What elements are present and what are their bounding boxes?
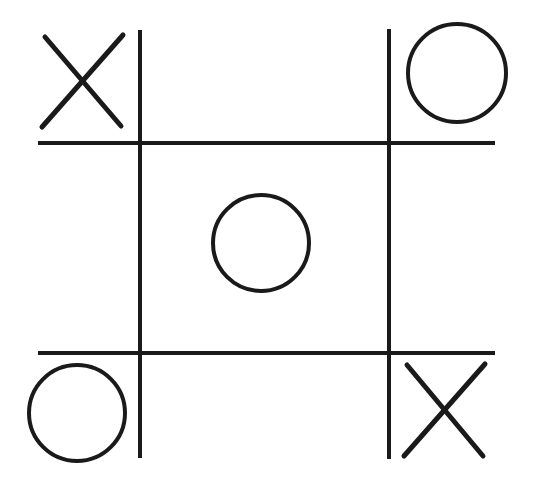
cell-r0-c1[interactable] [140,30,389,143]
cell-r1-c1[interactable] [140,143,389,353]
cell-r1-c0[interactable] [38,143,140,353]
cell-r2-c0[interactable] [20,353,140,463]
cell-r0-c2[interactable] [389,30,495,143]
tic-tac-toe-board [0,0,533,492]
cell-r2-c1[interactable] [140,353,389,463]
cell-r1-c2[interactable] [389,143,495,353]
